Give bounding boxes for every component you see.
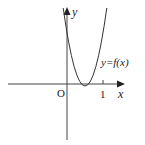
- curve-label: y=f(x): [100, 56, 129, 69]
- y-axis-label: y: [71, 5, 78, 19]
- function-graph: O 1 x y y=f(x): [0, 0, 145, 145]
- parabola-curve: [63, 8, 107, 86]
- x-axis-label: x: [117, 87, 124, 101]
- origin-label: O: [57, 87, 65, 99]
- y-axis-arrow-icon: [64, 7, 71, 15]
- x-tick-label: 1: [100, 88, 106, 100]
